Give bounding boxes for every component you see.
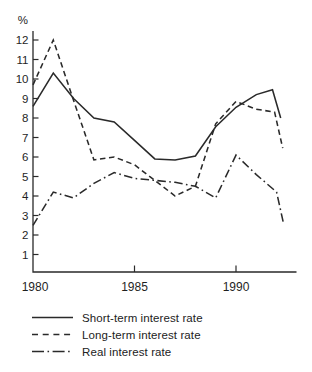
dashdot-line-sample-icon	[32, 349, 73, 354]
y-tick-label: 6	[22, 151, 28, 163]
y-tick-label: 5	[22, 171, 28, 183]
series-line-dashed	[33, 40, 283, 196]
solid-line-sample-icon	[32, 315, 73, 320]
y-tick-label: 10	[16, 73, 29, 85]
y-tick-label: 12	[16, 34, 29, 46]
y-axis-unit-label: %	[18, 14, 28, 26]
chart-legend: Short-term interest rate Long-term inter…	[0, 309, 312, 360]
series-line-solid	[33, 73, 281, 160]
legend-label-real: Real interest rate	[82, 346, 171, 358]
x-tick-label: 1990	[223, 280, 250, 294]
y-tick-label: 8	[22, 112, 28, 124]
legend-item-real: Real interest rate	[0, 343, 312, 360]
chart-canvas: % 123456789101112198019851990	[0, 0, 312, 302]
x-tick-label: 1980	[22, 280, 49, 294]
interest-rate-chart: % 123456789101112198019851990	[0, 0, 312, 302]
legend-label-long-term: Long-term interest rate	[82, 329, 201, 341]
x-tick-label: 1985	[121, 280, 148, 294]
y-tick-label: 1	[22, 249, 28, 261]
legend-label-short-term: Short-term interest rate	[82, 312, 203, 324]
series-line-dashdot	[33, 155, 284, 225]
axes	[33, 31, 297, 272]
y-tick-label: 2	[22, 229, 28, 241]
legend-item-long-term: Long-term interest rate	[0, 326, 312, 343]
legend-item-short-term: Short-term interest rate	[0, 309, 312, 326]
dashed-line-sample-icon	[32, 332, 73, 337]
y-tick-label: 4	[22, 190, 29, 202]
y-tick-label: 7	[22, 132, 28, 144]
y-tick-label: 3	[22, 210, 28, 222]
y-tick-label: 11	[17, 54, 29, 66]
y-tick-label: 9	[22, 93, 28, 105]
